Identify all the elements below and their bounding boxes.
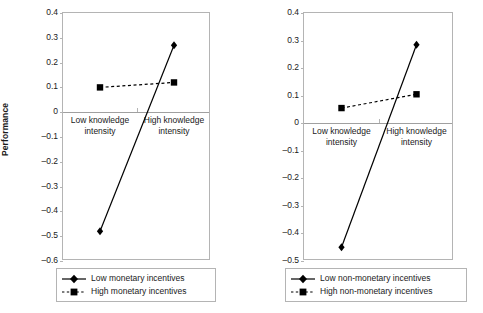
y-tick-label: –0.4 (282, 228, 299, 237)
series-line (342, 45, 417, 248)
y-axis-tick (301, 123, 304, 124)
y-tick-label: 0.3 (287, 35, 299, 44)
chart-panel-monetary: Performance 0.40.30.20.10–0.1–0.2–0.3–0.… (0, 0, 241, 313)
data-point-marker (338, 243, 344, 251)
y-tick-label: 0.1 (46, 82, 58, 91)
y-tick-label: –0.3 (41, 181, 58, 190)
y-axis-tick (301, 233, 304, 234)
legend-item-high-non-monetary: High non-monetary incentives (290, 285, 460, 298)
y-axis-tick (60, 211, 63, 212)
data-series-left (63, 13, 211, 261)
legend-key-diamond-solid-icon (61, 273, 87, 285)
plot-area-right: Low knowledge intensity High knowledge i… (303, 12, 453, 260)
data-series-right (304, 13, 454, 261)
y-tick-label: 0.1 (287, 90, 299, 99)
y-tick-label: 0.2 (287, 63, 299, 72)
legend-item-high-monetary: High monetary incentives (61, 285, 209, 298)
plot-area-left: Low knowledge intensity High knowledge i… (62, 12, 210, 260)
legend-key-diamond-solid-icon (290, 273, 316, 285)
series-line (100, 82, 174, 87)
y-axis-tick (301, 261, 304, 262)
y-axis-tick (301, 13, 304, 14)
y-axis-tick (60, 162, 63, 163)
legend-key-square-dashed-icon (61, 286, 87, 298)
y-axis-tick (301, 96, 304, 97)
y-axis-tick (60, 137, 63, 138)
legend-label-high-non-monetary: High non-monetary incentives (320, 287, 432, 296)
series-line (342, 94, 417, 108)
y-axis-tick (60, 87, 63, 88)
chart-panel-non-monetary: 0.40.30.20.10–0.1–0.2–0.3–0.4–0.5 Low kn… (241, 0, 483, 313)
y-axis-tick (60, 38, 63, 39)
y-tick-label: 0.4 (46, 8, 58, 17)
legend-label-low-non-monetary: Low non-monetary incentives (320, 274, 431, 283)
y-tick-label: –0.1 (41, 132, 58, 141)
y-axis-tick-labels-left: 0.40.30.20.10–0.1–0.2–0.3–0.4–0.5–0.6 (28, 0, 58, 258)
y-axis-tick (60, 112, 63, 113)
data-point-marker (171, 41, 177, 49)
y-tick-label: –0.4 (41, 206, 58, 215)
y-axis-tick (60, 236, 63, 237)
y-axis-tick (301, 178, 304, 179)
data-point-marker (413, 91, 419, 97)
data-point-marker (97, 84, 103, 90)
data-point-marker (338, 105, 344, 111)
y-axis-tick (60, 63, 63, 64)
two-panel-line-chart-figure: Performance 0.40.30.20.10–0.1–0.2–0.3–0.… (0, 0, 483, 313)
y-axis-title: Performance (0, 0, 12, 258)
y-axis-tick (301, 206, 304, 207)
y-tick-label: –0.1 (282, 146, 299, 155)
legend-right: Low non-monetary incentives High non-mon… (285, 268, 467, 302)
y-axis-tick (301, 151, 304, 152)
y-tick-label: –0.5 (282, 256, 299, 265)
y-axis-tick (301, 41, 304, 42)
y-tick-label: –0.6 (41, 256, 58, 265)
y-axis-tick (60, 261, 63, 262)
legend-item-low-non-monetary: Low non-monetary incentives (290, 272, 460, 285)
legend-label-low-monetary: Low monetary incentives (91, 274, 185, 283)
series-line (100, 45, 174, 231)
y-tick-label: 0.2 (46, 57, 58, 66)
y-tick-label: 0.4 (287, 8, 299, 17)
legend-item-low-monetary: Low monetary incentives (61, 272, 209, 285)
legend-left: Low monetary incentives High monetary in… (56, 268, 216, 302)
y-tick-label: 0.3 (46, 33, 58, 42)
data-point-marker (171, 79, 177, 85)
y-axis-tick (60, 13, 63, 14)
y-axis-tick (60, 187, 63, 188)
data-point-marker (97, 227, 103, 235)
y-tick-label: –0.2 (282, 173, 299, 182)
data-point-marker (413, 41, 419, 49)
y-tick-label: 0 (53, 107, 58, 116)
y-axis-tick-labels-right: 0.40.30.20.10–0.1–0.2–0.3–0.4–0.5 (269, 0, 299, 258)
y-tick-label: 0 (294, 118, 299, 127)
legend-key-square-dashed-icon (290, 286, 316, 298)
legend-label-high-monetary: High monetary incentives (91, 287, 186, 296)
y-tick-label: –0.5 (41, 231, 58, 240)
y-axis-tick (301, 68, 304, 69)
y-tick-label: –0.3 (282, 201, 299, 210)
y-tick-label: –0.2 (41, 157, 58, 166)
